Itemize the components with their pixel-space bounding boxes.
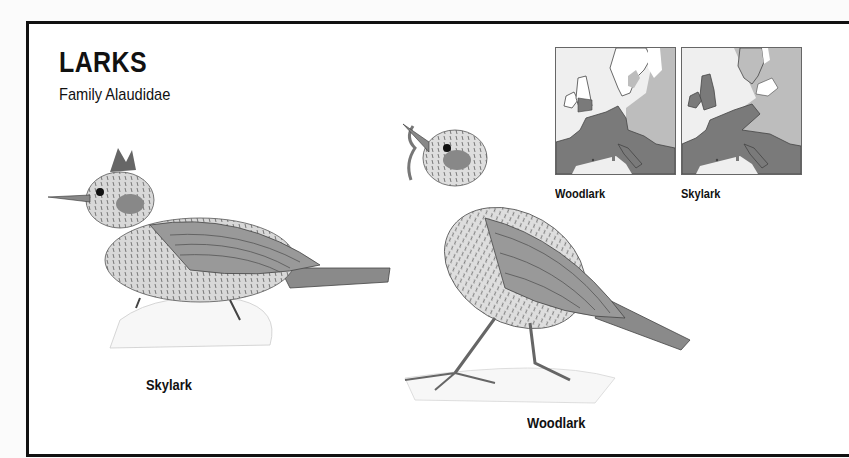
europe-range-map-icon — [682, 48, 801, 174]
skylark-label: Skylark — [146, 376, 192, 393]
skylark-illustration-icon — [40, 140, 400, 350]
skylark-range-map — [681, 47, 802, 175]
page-title: LARKS — [59, 46, 147, 79]
woodlark-label: Woodlark — [527, 414, 586, 431]
woodlark-illustration-icon — [395, 118, 695, 408]
family-subtitle: Family Alaudidae — [59, 85, 170, 105]
